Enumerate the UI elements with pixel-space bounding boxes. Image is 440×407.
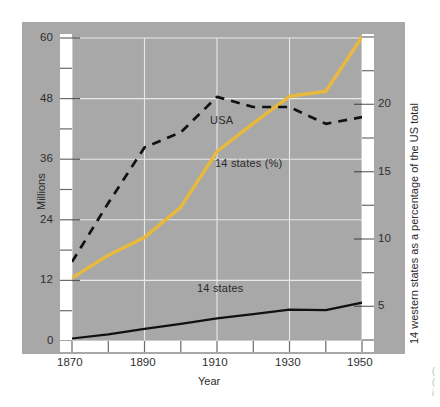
x-tick-label-1930: 1930 — [275, 356, 301, 368]
right-axis-band — [362, 34, 374, 345]
y2-tick-label-20: 20 — [378, 97, 391, 109]
y2-tick-label-5: 5 — [378, 299, 384, 311]
y-tick-label-12: 12 — [40, 273, 53, 285]
y-axis-title: Millions — [35, 173, 47, 210]
y-tick-label-60: 60 — [40, 31, 53, 43]
x-tick-label-1890: 1890 — [130, 356, 156, 368]
y-tick-label-0: 0 — [47, 334, 53, 346]
series-label-usa: USA — [210, 114, 233, 126]
right-axis-major-ticks — [354, 104, 362, 306]
chart-plot-area — [0, 0, 440, 407]
chart-svg — [0, 0, 440, 407]
left-axis-major-ticks — [72, 38, 80, 280]
series-label-14-states: 14 states — [197, 282, 243, 294]
chart-figure: 60 48 36 24 12 0 20 15 10 5 1870 1890 19… — [0, 0, 440, 407]
x-tick-label-1870: 1870 — [57, 356, 83, 368]
y2-tick-label-10: 10 — [378, 232, 391, 244]
y-tick-label-24: 24 — [40, 213, 53, 225]
page-edge-artifact: ((i — [432, 366, 435, 399]
series-label-14-states-percent: 14 states (%) — [215, 157, 282, 169]
y-tick-label-36: 36 — [40, 152, 53, 164]
y-tick-label-48: 48 — [40, 92, 53, 104]
x-tick-label-1910: 1910 — [202, 356, 228, 368]
x-axis-title: Year — [198, 375, 220, 387]
x-tick-label-1950: 1950 — [347, 356, 373, 368]
y2-tick-label-15: 15 — [378, 165, 391, 177]
y2-axis-title: 14 western states as a percentage of the… — [408, 103, 420, 344]
